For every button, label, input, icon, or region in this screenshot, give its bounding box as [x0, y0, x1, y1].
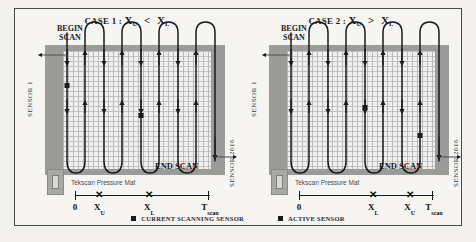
filled-square-marker-icon: [131, 216, 136, 221]
filled-square-marker-icon: [278, 216, 283, 221]
axis-line: [299, 195, 434, 196]
legend-item-active-sensor: ACTIVE SENSOR: [278, 215, 345, 222]
axis-marker-xu-case-2: ✕: [406, 190, 414, 200]
axis-tick-origin: [75, 191, 76, 200]
timeline-axis-case-2: ✕ ✕ 0 XL XU Tscan: [299, 195, 434, 196]
panel-case-1: CASE 1 : XU < XL BEGIN SCAN SENSOR 1 SEN…: [15, 9, 239, 227]
legend-label-active-sensor: ACTIVE SENSOR: [288, 215, 345, 222]
axis-tick-end: [432, 191, 433, 200]
figure-legend: CURRENT SCANNING SENSOR ACTIVE SENSOR: [14, 210, 462, 226]
axis-tick-origin: [299, 191, 300, 200]
active-sensor-markers-case-2: [363, 105, 423, 138]
axis-tick-end: [208, 191, 209, 200]
timeline-axis-case-1: ✕ ✕ 0 XU XL Tscan: [75, 195, 210, 196]
legend-item-current-scanning-sensor: CURRENT SCANNING SENSOR: [131, 215, 244, 222]
panel-case-2: CASE 2 : XU > XL BEGIN SCAN SENSOR 1 SEN…: [239, 9, 463, 227]
axis-marker-xu-case-1: ✕: [95, 190, 103, 200]
figure-frame: CASE 1 : XU < XL BEGIN SCAN SENSOR 1 SEN…: [14, 8, 462, 226]
figure-page: CASE 1 : XU < XL BEGIN SCAN SENSOR 1 SEN…: [0, 0, 476, 242]
axis-marker-xl-case-1: ✕: [145, 190, 153, 200]
axis-marker-xl-case-2: ✕: [369, 190, 377, 200]
legend-label-current-scanning-sensor: CURRENT SCANNING SENSOR: [141, 215, 244, 222]
